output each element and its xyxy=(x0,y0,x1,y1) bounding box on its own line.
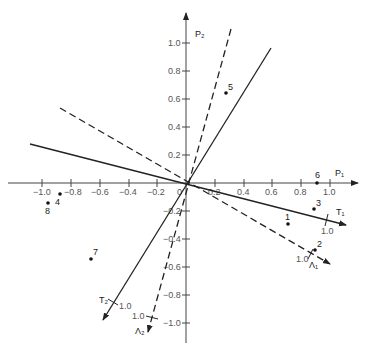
svg-text:0.8: 0.8 xyxy=(294,187,307,197)
p2-axis-label: P₂ xyxy=(195,29,205,39)
svg-text:−0.8: −0.8 xyxy=(64,187,82,197)
svg-text:T₁: T₁ xyxy=(336,207,345,217)
svg-text:0.4: 0.4 xyxy=(237,187,250,197)
point-2: 2 xyxy=(313,239,322,252)
svg-text:−0.6: −0.6 xyxy=(91,187,109,197)
svg-text:1.0: 1.0 xyxy=(321,226,334,236)
svg-text:1.0: 1.0 xyxy=(119,301,132,311)
svg-text:−1.0: −1.0 xyxy=(163,318,181,328)
point-4: 4 xyxy=(55,192,62,207)
point-7: 7 xyxy=(89,247,98,261)
svg-text:0.6: 0.6 xyxy=(265,187,278,197)
svg-text:Λ₂: Λ₂ xyxy=(135,326,145,336)
svg-text:0.8: 0.8 xyxy=(168,66,181,76)
data-points: 1 2 3 4 5 6 7 8 xyxy=(45,82,322,261)
svg-text:1: 1 xyxy=(285,212,290,222)
svg-text:4: 4 xyxy=(55,197,60,207)
svg-text:−1.0: −1.0 xyxy=(33,187,51,197)
svg-text:1.0: 1.0 xyxy=(296,254,309,264)
svg-text:0.6: 0.6 xyxy=(168,94,181,104)
point-5: 5 xyxy=(224,82,233,95)
point-8: 8 xyxy=(45,201,50,216)
svg-text:−0.8: −0.8 xyxy=(163,290,181,300)
svg-text:2: 2 xyxy=(317,239,322,249)
svg-text:8: 8 xyxy=(45,206,50,216)
point-1: 1 xyxy=(285,212,290,226)
factor-rotation-diagram: −1.0 −0.8 −0.6 −0.4 −0.2 0 0.2 0.4 0.6 0… xyxy=(0,0,366,363)
svg-text:0.4: 0.4 xyxy=(168,122,181,132)
point-3: 3 xyxy=(312,198,321,211)
svg-text:−0.4: −0.4 xyxy=(119,187,137,197)
svg-text:−0.2: −0.2 xyxy=(147,187,165,197)
svg-text:1.0: 1.0 xyxy=(168,38,181,48)
svg-text:6: 6 xyxy=(315,170,320,180)
diagram-canvas: −1.0 −0.8 −0.6 −0.4 −0.2 0 0.2 0.4 0.6 0… xyxy=(0,0,366,363)
svg-text:Λ₁: Λ₁ xyxy=(309,260,318,270)
svg-text:3: 3 xyxy=(316,198,321,208)
p1-axis-label: P₁ xyxy=(335,168,344,178)
svg-text:T₂: T₂ xyxy=(99,295,108,305)
svg-text:5: 5 xyxy=(228,82,233,92)
svg-text:1.0: 1.0 xyxy=(323,187,336,197)
svg-text:1.0: 1.0 xyxy=(132,311,145,321)
svg-text:7: 7 xyxy=(93,247,98,257)
svg-text:0.2: 0.2 xyxy=(168,150,181,160)
